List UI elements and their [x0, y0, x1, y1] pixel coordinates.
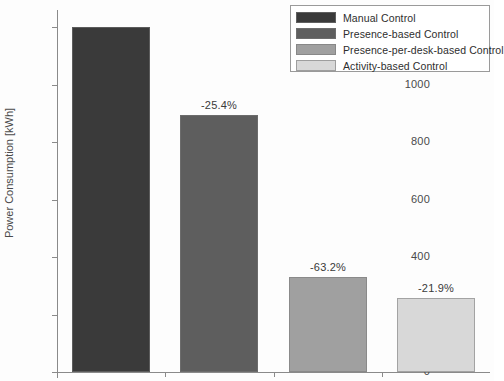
legend-color-swatch: [296, 44, 336, 55]
x-axis-tick: [274, 372, 275, 377]
legend-item-3: Presence-per-desk-based Control: [296, 42, 484, 57]
y-axis-tick-label: 800: [384, 135, 430, 147]
y-axis-tick: [52, 85, 57, 86]
legend-item-1: Manual Control: [296, 10, 484, 25]
y-axis-tick-label: 400: [384, 250, 430, 262]
legend-item-4: Activity-based Control: [296, 58, 484, 73]
y-axis-tick-label: 1000: [384, 78, 430, 90]
legend-item-2: Presence-based Control: [296, 26, 484, 41]
y-axis-tick: [52, 200, 57, 201]
y-axis-title: Power Consumption [kWh]: [3, 108, 15, 238]
x-axis-tick: [382, 372, 383, 377]
bar-3: [289, 277, 367, 372]
legend-color-swatch: [296, 28, 336, 39]
bar-1: [72, 27, 150, 372]
bar-value-label: -21.9%: [397, 282, 475, 294]
y-axis-tick: [52, 372, 57, 373]
legend-color-swatch: [296, 60, 336, 71]
legend-color-swatch: [296, 12, 336, 23]
y-axis-tick: [52, 142, 57, 143]
bar-2: [180, 115, 258, 372]
y-axis-tick: [52, 315, 57, 316]
y-axis-tick: [52, 27, 57, 28]
legend-item-label: Activity-based Control: [343, 60, 447, 72]
y-axis-line: [57, 10, 58, 378]
y-axis-tick-label: 600: [384, 193, 430, 205]
bar-value-label: -63.2%: [289, 261, 367, 273]
legend-item-label: Manual Control: [343, 12, 416, 24]
x-axis-tick: [165, 372, 166, 377]
bar-4: [397, 298, 475, 372]
y-axis-tick: [52, 257, 57, 258]
bar-value-label: -25.4%: [180, 99, 258, 111]
legend-item-label: Presence-per-desk-based Control: [343, 44, 504, 56]
legend-item-label: Presence-based Control: [343, 28, 458, 40]
legend: Manual ControlPresence-based ControlPres…: [290, 5, 490, 72]
